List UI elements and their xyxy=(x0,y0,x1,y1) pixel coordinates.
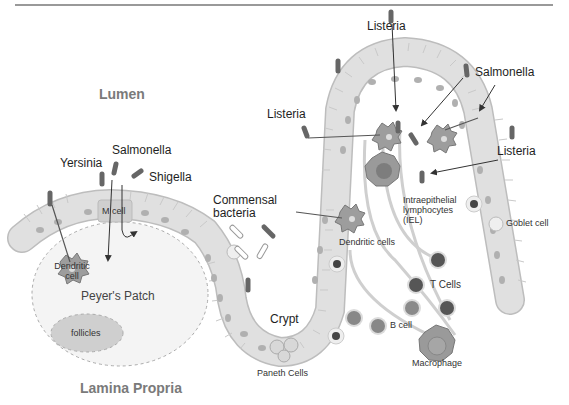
label-salmonella-left: Salmonella xyxy=(112,144,171,157)
label-b-cell: B cell xyxy=(390,321,412,331)
goblet-cell-shape xyxy=(489,217,503,231)
diagram-canvas xyxy=(0,0,569,405)
label-listeria-right: Listeria xyxy=(497,145,536,158)
label-salmonella-right: Salmonella xyxy=(475,66,534,79)
label-t-cells: T Cells xyxy=(430,279,461,290)
label-listeria-left: Listeria xyxy=(267,108,306,121)
label-macrophage: Macrophage xyxy=(412,359,462,369)
label-peyers-patch: Peyer's Patch xyxy=(81,290,155,303)
label-follicles: follicles xyxy=(71,329,101,339)
label-commensal-bacteria: Commensal bacteria xyxy=(213,194,283,220)
label-m-cell: M cell xyxy=(102,207,126,217)
label-listeria-top: Listeria xyxy=(367,20,406,33)
label-yersinia: Yersinia xyxy=(60,157,102,170)
label-dendritic-cell: Dendritic cell xyxy=(52,262,92,282)
label-iel: Intraepithelial lymphocytes (IEL) xyxy=(403,196,465,226)
region-label-lamina-propria: Lamina Propria xyxy=(80,381,182,396)
region-label-lumen: Lumen xyxy=(99,87,145,102)
gut-immunity-diagram: Lumen Lamina Propria Yersinia Salmonella… xyxy=(0,0,569,405)
label-goblet-cell: Goblet cell xyxy=(506,219,549,229)
label-dendritic-cells: Dendritic cells xyxy=(339,238,395,248)
label-paneth-cells: Paneth Cells xyxy=(257,369,308,379)
label-crypt: Crypt xyxy=(270,313,299,326)
label-shigella: Shigella xyxy=(149,171,192,184)
